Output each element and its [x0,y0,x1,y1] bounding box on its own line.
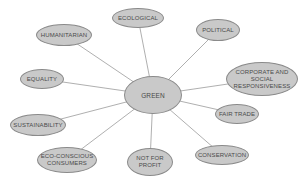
node-not-for-profit: NOT FOR PROFIT [127,148,173,176]
node-equality: EQUALITY [20,69,64,89]
node-political: POLITICAL [196,19,240,41]
node-ecological: ECOLOGICAL [112,8,164,28]
node-conservation: CONSERVATION [195,145,249,165]
node-sustainability: SUSTAINABILITY [10,114,66,136]
node-eco-conscious: ECO-CONSCIOUS CONSUMERS [37,147,97,173]
node-corporate: CORPORATE AND SOCIAL RESPONSIVENESS [226,62,298,96]
node-green: GREEN [124,76,182,114]
node-humanitarian: HUMANITARIAN [36,24,92,46]
node-fair-trade: FAIR TRADE [215,104,259,124]
